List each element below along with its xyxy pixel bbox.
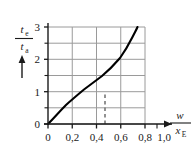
xtick-label-0.6: 0,6: [114, 131, 128, 143]
xtick-label-0: 0: [45, 131, 51, 143]
xtick-label-0.4: 0,4: [90, 131, 104, 143]
x-axis-arrow-icon: [164, 121, 172, 128]
ytick-label-3: 3: [35, 21, 41, 33]
y-axis-label-denominator-sub: a: [25, 46, 29, 55]
x-axis-label-denominator-sub: E: [182, 130, 187, 139]
chart-svg: 0 1 2 3 0 0,2 0,4 0,6 0,8 1,0 t e t a w …: [0, 0, 194, 156]
ytick-label-2: 2: [35, 53, 41, 65]
y-axis-label-denominator: t: [20, 40, 24, 52]
y-axis-arrow-icon: [19, 55, 26, 63]
xtick-label-1.0: 1,0: [157, 131, 171, 143]
y-axis-label-numerator-sub: e: [25, 29, 29, 38]
x-axis-label-denominator: x: [175, 124, 181, 136]
xtick-label-0.8: 0,8: [138, 131, 152, 143]
x-axis-label-numerator: w: [176, 109, 184, 121]
ytick-label-1: 1: [35, 86, 41, 98]
xtick-label-0.2: 0,2: [65, 131, 79, 143]
y-axis-label-numerator: t: [20, 23, 24, 35]
x-axis-label: w x E: [170, 109, 191, 139]
ytick-label-0: 0: [35, 118, 41, 130]
y-axis-label: t e t a: [15, 23, 33, 78]
chart-figure: 0 1 2 3 0 0,2 0,4 0,6 0,8 1,0 t e t a w …: [0, 0, 194, 156]
